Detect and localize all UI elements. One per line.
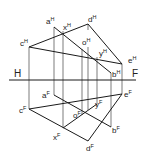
label-o-top: oH bbox=[82, 37, 90, 47]
label-y-top: yH bbox=[99, 48, 107, 58]
label-x-front: xF bbox=[53, 132, 61, 142]
label-x-top: xH bbox=[63, 22, 71, 32]
front-view-labels: aF cF eF yF oF bF xF dF bbox=[19, 89, 132, 153]
label-c-top: cH bbox=[20, 38, 28, 48]
diagram-canvas: H F aH xH dH cH oH yH eH bH aF cF eF yF … bbox=[0, 0, 145, 153]
label-d-front: dF bbox=[86, 143, 94, 153]
axis-label-h: H bbox=[14, 68, 21, 79]
label-b-top: bH bbox=[112, 69, 120, 79]
label-a-top: aH bbox=[46, 16, 54, 26]
label-y-front: yF bbox=[95, 99, 103, 109]
label-b-front: bF bbox=[112, 125, 120, 135]
projection-diagram: H F aH xH dH cH oH yH eH bH aF cF eF yF … bbox=[0, 0, 145, 153]
top-edge-ce bbox=[29, 47, 122, 64]
label-o-front: oF bbox=[73, 110, 81, 120]
label-a-front: aF bbox=[42, 90, 50, 100]
top-edge-cd bbox=[29, 24, 88, 47]
top-view bbox=[29, 24, 122, 73]
label-d-top: dH bbox=[88, 14, 96, 24]
label-e-top: eH bbox=[128, 55, 136, 65]
label-e-front: eF bbox=[124, 89, 132, 99]
front-line-ab bbox=[54, 95, 111, 127]
axis-label-f: F bbox=[132, 68, 138, 79]
label-c-front: cF bbox=[19, 105, 27, 115]
